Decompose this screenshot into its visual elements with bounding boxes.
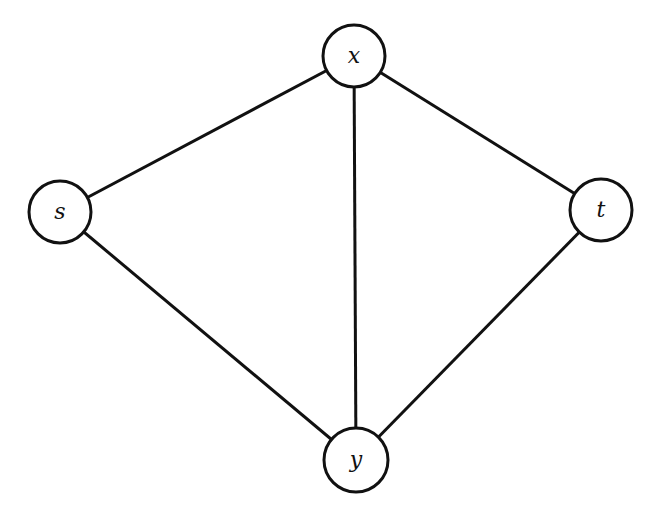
node-t: t [570, 179, 632, 241]
node-y-label: y [349, 447, 363, 472]
node-y: y [324, 428, 388, 492]
edges [60, 56, 601, 460]
edge-x-t [354, 56, 601, 210]
node-x: x [323, 25, 385, 87]
node-s-label: s [54, 199, 65, 224]
node-t-label: t [597, 197, 606, 222]
node-s: s [29, 181, 91, 243]
edge-s-y [60, 212, 356, 460]
edge-x-y [354, 56, 356, 460]
edge-y-t [356, 210, 601, 460]
edge-s-x [60, 56, 354, 212]
node-x-label: x [348, 43, 361, 68]
graph-diagram: x s t y [0, 0, 662, 517]
